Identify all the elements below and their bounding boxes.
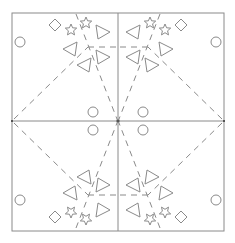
triangle-icon (145, 58, 159, 72)
diamond-icon (175, 19, 187, 31)
triangle-icon (159, 186, 173, 200)
star-icon (80, 17, 91, 28)
star-icon (159, 24, 170, 35)
circle-icon (138, 125, 148, 135)
diamond-icon (49, 19, 61, 31)
triangle-icon (77, 58, 91, 72)
star-icon (144, 214, 155, 225)
triangle-icon (126, 50, 140, 64)
triangle-icon (96, 50, 110, 64)
left-edge-marker (11, 120, 13, 122)
right-edge-marker (223, 120, 225, 122)
triangle-icon (96, 203, 110, 217)
dashed-guide-line (14, 123, 88, 195)
star-icon (144, 17, 155, 28)
circle-icon (88, 125, 98, 135)
circle-icon (15, 195, 25, 205)
circle-icon (15, 37, 25, 47)
quadrant-top-left (14, 14, 118, 119)
diagram-canvas (0, 0, 235, 243)
quadrant-bottom-right (118, 123, 222, 228)
diamond-icon (49, 211, 61, 223)
star-icon (65, 207, 76, 218)
dashed-guide-line (14, 47, 88, 119)
dashed-guide-line (148, 123, 222, 195)
triangle-icon (159, 42, 173, 56)
triangle-icon (126, 178, 140, 192)
quadrant-bottom-left (14, 123, 118, 228)
circle-icon (211, 37, 221, 47)
diamond-icon (175, 211, 187, 223)
triangle-icon (63, 186, 77, 200)
circle-icon (138, 107, 148, 117)
triangle-icon (77, 170, 91, 184)
triangle-icon (126, 203, 140, 217)
triangle-icon (96, 178, 110, 192)
quadrant-top-right (118, 14, 222, 119)
center-marker (117, 120, 120, 123)
triangle-icon (145, 170, 159, 184)
star-icon (159, 207, 170, 218)
triangle-icon (63, 42, 77, 56)
circle-icon (211, 195, 221, 205)
star-icon (80, 214, 91, 225)
triangle-icon (96, 25, 110, 39)
circle-icon (88, 107, 98, 117)
triangle-icon (126, 25, 140, 39)
dashed-guide-line (148, 47, 222, 119)
star-icon (65, 24, 76, 35)
